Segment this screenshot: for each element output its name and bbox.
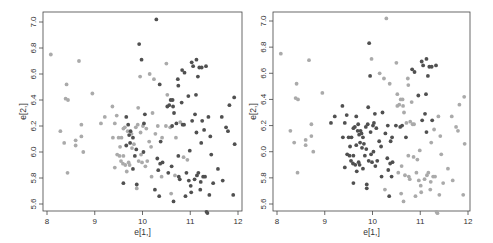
data-point-dark (366, 105, 370, 109)
data-point-dark (341, 135, 345, 139)
data-point-dark (426, 74, 430, 78)
data-point-dark (186, 94, 190, 98)
data-point-light (426, 171, 430, 175)
data-point-light (383, 188, 387, 192)
data-point-light (429, 141, 433, 145)
data-point-light (135, 187, 139, 191)
data-point-dark (190, 119, 194, 123)
data-point-dark (385, 156, 389, 160)
data-point-dark (333, 115, 337, 119)
data-point-dark (348, 154, 352, 158)
data-point-dark (191, 64, 195, 68)
data-point-dark (220, 115, 224, 119)
data-point-light (451, 179, 455, 183)
data-point-dark (137, 42, 141, 46)
data-point-dark (156, 168, 160, 172)
data-point-dark (159, 140, 163, 144)
data-point-dark (185, 171, 189, 175)
data-point-light (147, 140, 151, 144)
data-point-dark (175, 122, 179, 126)
data-point-light (412, 122, 416, 126)
data-point-light (150, 175, 154, 179)
data-point-light (279, 52, 283, 56)
data-point-light (174, 136, 178, 140)
data-point-dark (366, 122, 370, 126)
data-point-dark (172, 200, 176, 204)
data-point-dark (184, 194, 188, 198)
data-point-dark (367, 159, 371, 163)
data-point-dark (352, 154, 356, 158)
y-tick-label: 6.0 (259, 146, 268, 158)
data-point-light (437, 193, 441, 197)
data-point-light (122, 154, 126, 158)
data-point-dark (379, 145, 383, 149)
data-point-dark (216, 167, 220, 171)
data-point-dark (176, 84, 180, 88)
data-point-light (397, 103, 401, 107)
data-point-light (400, 164, 404, 168)
data-point-dark (190, 60, 194, 64)
data-point-light (412, 155, 416, 159)
x-tick-label: 11 (416, 217, 425, 226)
data-point-dark (170, 124, 174, 128)
data-point-light (415, 158, 419, 162)
data-point-dark (352, 181, 356, 185)
data-point-dark (368, 74, 372, 78)
data-point-dark (367, 41, 371, 45)
data-point-dark (154, 18, 158, 22)
y-tick-label: 6.8 (29, 42, 38, 54)
data-point-dark (358, 163, 362, 167)
data-point-dark (343, 166, 347, 170)
data-point-light (463, 142, 467, 146)
data-point-dark (203, 175, 207, 179)
data-point-light (394, 61, 398, 65)
data-point-light (304, 138, 308, 142)
y-tick-label: 6.2 (259, 119, 268, 131)
data-point-light (79, 123, 83, 127)
data-point-dark (166, 171, 170, 175)
data-point-dark (389, 139, 393, 143)
data-point-dark (404, 135, 408, 139)
data-point-dark (377, 139, 381, 143)
data-point-dark (189, 184, 193, 188)
data-point-dark (430, 65, 434, 69)
data-point-dark (373, 112, 377, 116)
data-point-light (439, 152, 443, 156)
data-point-light (145, 159, 149, 163)
data-point-dark (363, 154, 367, 158)
plot-frame (43, 12, 242, 211)
data-point-dark (176, 77, 180, 81)
data-point-light (62, 141, 66, 145)
data-point-dark (171, 105, 175, 109)
data-point-light (140, 161, 144, 165)
data-point-light (144, 127, 148, 131)
y-tick-label: 6.2 (29, 120, 38, 132)
data-point-light (74, 144, 78, 148)
data-point-light (288, 129, 292, 133)
data-point-light (402, 199, 406, 203)
data-point-light (143, 164, 147, 168)
data-point-light (406, 83, 410, 87)
data-point-dark (423, 112, 427, 116)
plot-frame (273, 12, 470, 211)
data-point-dark (354, 143, 358, 147)
data-point-light (441, 181, 445, 185)
data-point-dark (140, 58, 144, 62)
data-point-light (151, 111, 155, 115)
data-point-dark (196, 171, 200, 175)
data-point-light (296, 98, 300, 102)
data-point-light (402, 111, 406, 115)
y-axis-label: e[2,] (18, 103, 28, 120)
left-scatter-panel: 891011125.65.86.06.26.46.66.87.0e[1,]e[2… (0, 0, 246, 243)
data-point-dark (206, 211, 210, 215)
data-point-dark (221, 179, 225, 183)
data-point-light (113, 122, 117, 126)
data-point-light (160, 175, 164, 179)
data-point-dark (434, 64, 438, 68)
data-point-dark (353, 125, 357, 129)
data-point-light (49, 53, 53, 57)
data-point-light (66, 171, 70, 175)
data-point-light (414, 194, 418, 198)
data-point-dark (195, 58, 199, 62)
y-tick-label: 6.4 (259, 93, 268, 105)
